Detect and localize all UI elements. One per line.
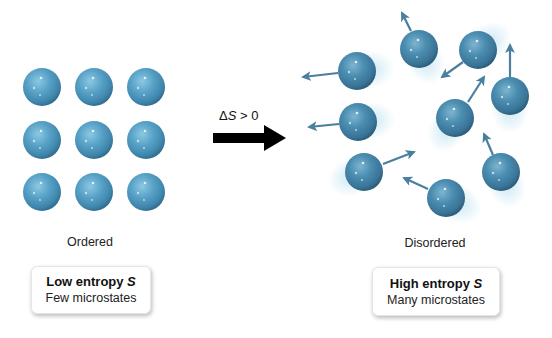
process-arrow-icon (213, 125, 286, 151)
many-microstates-text: Many microstates (387, 292, 485, 308)
ordered-sphere (75, 173, 113, 211)
few-microstates-text: Few microstates (46, 290, 137, 306)
low-entropy-title-var: S (127, 274, 136, 289)
delta-relation: > 0 (236, 108, 258, 123)
ordered-sphere (23, 173, 61, 211)
velocity-arrow-icon (309, 124, 339, 127)
delta-s-label: ΔS > 0 (219, 108, 258, 123)
ordered-sphere (127, 173, 165, 211)
velocity-arrow-icon (383, 152, 414, 164)
low-entropy-title-text: Low entropy (46, 274, 127, 289)
disordered-sphere (478, 134, 533, 214)
ordered-sphere (23, 68, 61, 106)
disordered-sphere (309, 99, 398, 142)
high-entropy-title: High entropy S (390, 276, 482, 292)
ordered-sphere (23, 121, 61, 159)
high-entropy-title-text: High entropy (390, 276, 474, 291)
ordered-sphere (75, 121, 113, 159)
high-entropy-title-var: S (474, 276, 483, 291)
velocity-arrow-icon (303, 73, 338, 77)
disordered-spheres (303, 12, 533, 231)
disordered-sphere (404, 175, 488, 231)
velocity-arrow-icon (468, 77, 484, 102)
velocity-arrow-icon (404, 178, 428, 189)
disordered-sphere (322, 149, 414, 203)
ordered-label: Ordered (67, 235, 113, 249)
disordered-sphere (396, 13, 453, 91)
ordered-sphere (127, 68, 165, 106)
velocity-arrow-icon (442, 62, 463, 77)
disordered-sphere (419, 77, 484, 160)
disordered-sphere (303, 48, 397, 92)
disordered-sphere (442, 12, 520, 77)
entropy-diagram: ΔS > 0 Ordered Disordered Low entropy S … (0, 0, 552, 338)
low-entropy-title: Low entropy S (46, 274, 136, 290)
velocity-arrow-icon (402, 13, 411, 31)
low-entropy-box: Low entropy S Few microstates (31, 266, 151, 314)
velocity-arrow-icon (484, 134, 493, 155)
disordered-label: Disordered (404, 236, 465, 250)
delta-symbol: Δ (219, 108, 228, 123)
high-entropy-box: High entropy S Many microstates (372, 267, 500, 316)
ordered-spheres (23, 68, 165, 211)
ordered-sphere (75, 68, 113, 106)
ordered-sphere (127, 121, 165, 159)
